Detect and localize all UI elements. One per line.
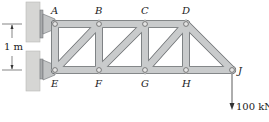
member-eb xyxy=(55,24,99,70)
pin-j xyxy=(230,68,235,73)
joint-label-d: D xyxy=(181,5,190,16)
pin-e xyxy=(53,68,58,73)
load-arrow xyxy=(230,74,235,110)
joint-label-e: E xyxy=(50,78,59,89)
joint-label-b: B xyxy=(94,5,102,16)
joint-label-c: C xyxy=(141,5,149,16)
pin-f xyxy=(97,68,102,73)
member-gd xyxy=(145,24,186,70)
joint-label-g: G xyxy=(141,78,149,89)
dimension-label: 1 m xyxy=(4,41,24,52)
member-fc xyxy=(99,24,145,70)
pin-g xyxy=(143,68,148,73)
member-dj xyxy=(186,24,232,70)
joint-label-f: F xyxy=(94,78,103,89)
pin-d xyxy=(184,22,189,27)
pin-a xyxy=(53,22,58,27)
pin-h xyxy=(184,68,189,73)
pin-c xyxy=(143,22,148,27)
load-label: 100 kN xyxy=(236,101,269,112)
joint-label-h: H xyxy=(181,78,191,89)
pin-b xyxy=(97,22,102,27)
joint-label-a: A xyxy=(50,5,58,16)
truss-diagram: A B C D E F G H J 1 m 100 kN xyxy=(0,0,269,122)
joint-label-j: J xyxy=(236,65,243,76)
